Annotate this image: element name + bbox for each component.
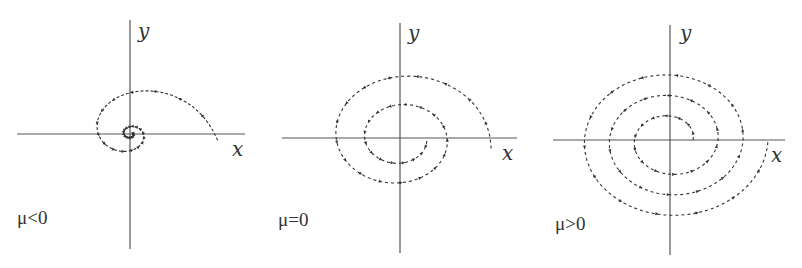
- arrowhead-icon: [388, 105, 392, 108]
- mu-condition-label: μ>0: [555, 213, 585, 234]
- arrowhead-icon: [611, 127, 614, 131]
- arrowhead-icon: [446, 139, 449, 142]
- x-axis-label: x: [502, 141, 513, 165]
- arrowhead-icon: [640, 160, 643, 163]
- arrowhead-icon: [672, 173, 675, 176]
- phase-portrait-figure: x y μ<0 x y μ=0 x y μ>0: [0, 0, 802, 268]
- arrowhead-icon: [143, 136, 146, 139]
- arrowhead-icon: [633, 148, 636, 152]
- y-axis-label: y: [137, 19, 150, 43]
- arrowhead-icon: [641, 123, 644, 127]
- arrowhead-icon: [424, 144, 427, 148]
- arrowhead-icon: [643, 97, 647, 100]
- arrowhead-icon: [139, 128, 143, 131]
- arrowhead-icon: [433, 167, 436, 170]
- arrowhead-icon: [364, 141, 367, 145]
- mu-condition-label: μ=0: [278, 209, 308, 230]
- trajectory-spiral: [584, 75, 768, 215]
- arrowhead-icon: [468, 99, 471, 102]
- arrowhead-icon: [432, 114, 436, 117]
- arrowhead-icon: [415, 75, 418, 78]
- y-axis-label: y: [407, 21, 420, 45]
- y-axis-label: y: [679, 21, 692, 45]
- panel-mu-positive: x y μ>0: [553, 21, 785, 255]
- arrowhead-icon: [387, 76, 391, 79]
- x-axis-label: x: [771, 143, 782, 167]
- arrowhead-icon: [634, 135, 637, 139]
- arrowhead-icon: [707, 111, 710, 114]
- arrowhead-icon: [444, 83, 448, 86]
- arrowhead-icon: [583, 146, 586, 149]
- arrowhead-icon: [403, 103, 406, 106]
- arrowhead-icon: [336, 120, 339, 124]
- arrowhead-icon: [419, 152, 422, 156]
- panel-mu-zero: x y μ=0: [278, 21, 517, 253]
- arrowhead-icon: [590, 115, 593, 119]
- arrowhead-icon: [399, 181, 402, 184]
- arrowhead-icon: [418, 177, 422, 180]
- x-axis-label: x: [232, 137, 243, 161]
- arrowhead-icon: [651, 116, 655, 119]
- arrowhead-icon: [343, 158, 346, 162]
- arrowhead-icon: [376, 110, 380, 113]
- arrowhead-icon: [695, 212, 698, 215]
- arrowhead-icon: [654, 169, 658, 172]
- arrowhead-icon: [667, 94, 670, 97]
- arrowhead-icon: [664, 114, 667, 117]
- arrowhead-icon: [741, 129, 744, 132]
- arrowhead-icon: [346, 101, 349, 105]
- arrowhead-icon: [639, 185, 643, 188]
- arrowhead-icon: [112, 98, 116, 101]
- arrowhead-icon: [96, 122, 99, 125]
- arrowhead-icon: [363, 86, 367, 89]
- arrowhead-icon: [363, 131, 366, 134]
- panel-mu-negative: x y μ<0: [17, 19, 245, 249]
- arrowhead-icon: [136, 146, 140, 149]
- direction-arrows: [96, 90, 205, 153]
- arrowhead-icon: [731, 197, 735, 200]
- arrowhead-icon: [379, 157, 383, 160]
- mu-condition-label: μ<0: [17, 207, 47, 228]
- arrowhead-icon: [153, 90, 156, 93]
- trajectory-spiral: [336, 76, 491, 183]
- arrowhead-icon: [369, 150, 372, 153]
- arrowhead-icon: [690, 170, 694, 173]
- arrowhead-icon: [705, 160, 708, 163]
- arrowhead-icon: [419, 106, 423, 109]
- arrowhead-icon: [122, 150, 125, 153]
- arrowhead-icon: [402, 161, 405, 164]
